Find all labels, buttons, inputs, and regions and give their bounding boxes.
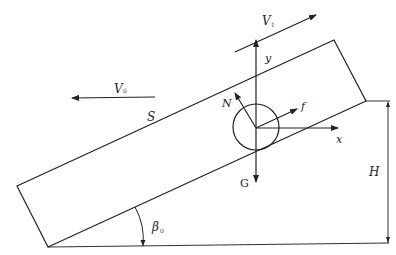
v1-subscript: 1 [271,21,275,28]
inclined-block [17,40,366,247]
incline-diagram: V 0 V 1 S N f x y G H β 0 [0,0,396,255]
x-label: x [336,133,343,146]
f-arrow [256,109,297,128]
ground-line [48,243,389,247]
n-label: N [221,97,232,110]
v1-arrow [235,15,316,52]
f-label: f [300,100,307,113]
s-label: S [147,110,155,124]
beta-subscript: 0 [160,227,164,234]
v0-arrow [72,97,155,98]
y-label: y [264,52,272,65]
g-label: G [240,177,249,190]
v0-subscript: 0 [123,87,127,94]
h-label: H [368,165,380,179]
beta-label: β [151,220,159,234]
n-arrow [235,93,256,128]
